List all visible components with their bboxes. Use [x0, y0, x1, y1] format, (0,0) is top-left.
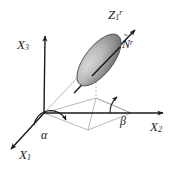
- angle-beta-arc: [110, 97, 117, 113]
- ground-projection-quadrilateral: [44, 98, 131, 130]
- tilde-accent-icon: ˜: [124, 34, 128, 45]
- angle-label-beta: β: [120, 115, 126, 127]
- axis-label-z1r: Z1r: [108, 8, 122, 23]
- angle-label-alpha: α: [41, 129, 47, 141]
- normal-vector-label: ˜Nr: [122, 38, 133, 50]
- axis-label-x2: X2: [150, 120, 162, 135]
- vector-accent-group: ˜N: [122, 38, 130, 50]
- coordinate-system-figure: X3 X2 X1 Z1r ˜Nr α β: [0, 0, 178, 169]
- diagram-canvas: [0, 0, 178, 169]
- axis-x1-line: [11, 113, 44, 149]
- elliptical-disk: [69, 27, 129, 93]
- axis-x3-line: [44, 36, 45, 113]
- axis-label-x1: X1: [19, 148, 31, 163]
- axis-label-x3: X3: [17, 38, 29, 53]
